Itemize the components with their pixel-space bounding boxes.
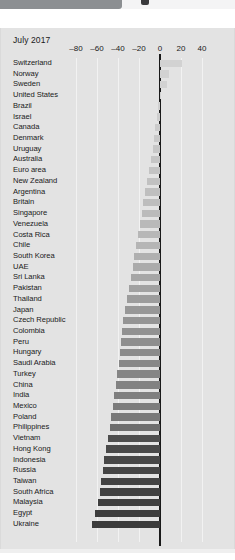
bar-chart-row: Switzerland — [1, 58, 235, 69]
bar-label: Indonesia — [13, 455, 45, 465]
bar-chart-row: India — [1, 390, 235, 401]
bar-chart-row: Denmark — [1, 133, 235, 144]
bar — [134, 253, 160, 260]
bar — [160, 70, 169, 77]
axis-tick-label: 40 — [198, 44, 207, 53]
bar-chart-row: Euro area — [1, 165, 235, 176]
axis-tick-label: –60 — [90, 44, 103, 53]
bar-chart-row: South Africa — [1, 487, 235, 498]
bar-chart-row: Malaysia — [1, 497, 235, 508]
bar — [143, 199, 160, 206]
bar-chart-row: Indonesia — [1, 455, 235, 466]
bar-chart-row: Japan — [1, 305, 235, 316]
bar-label: Poland — [13, 412, 36, 422]
bar — [119, 360, 160, 367]
bar-chart-row: Israel — [1, 112, 235, 123]
bar-label: Canada — [13, 122, 39, 132]
bar-label: South Korea — [13, 251, 55, 261]
bar-chart-row: Britain — [1, 197, 235, 208]
bar-label: Sweden — [13, 79, 40, 89]
bar-chart-row: Thailand — [1, 294, 235, 305]
bar-label: Venezuela — [13, 219, 48, 229]
bar-label: Saudi Arabia — [13, 358, 55, 368]
bar-label: Denmark — [13, 133, 43, 143]
bar-chart-row: Taiwan — [1, 476, 235, 487]
bar — [110, 424, 160, 431]
bar-chart-row: Poland — [1, 412, 235, 423]
bar-chart-row: Vietnam — [1, 433, 235, 444]
bar — [116, 381, 160, 388]
bar — [106, 445, 160, 452]
bar-label: Hungary — [13, 347, 41, 357]
axis-tick-label: –40 — [111, 44, 124, 53]
bar-label: Ukraine — [13, 519, 39, 529]
bar — [136, 242, 160, 249]
bar — [108, 435, 161, 442]
bar-label: Hong Kong — [13, 444, 51, 454]
bar — [138, 231, 160, 238]
bar — [155, 124, 160, 131]
bar-label: Uruguay — [13, 144, 41, 154]
bar-label: Costa Rica — [13, 230, 50, 240]
bar-label: Euro area — [13, 165, 46, 175]
bar — [151, 156, 160, 163]
bar — [133, 263, 160, 270]
bar — [153, 145, 160, 152]
bar-chart-row: Sweden — [1, 79, 235, 90]
bar-chart-row: Pakistan — [1, 283, 235, 294]
bar — [125, 306, 160, 313]
bar — [127, 295, 160, 302]
bar-chart-row: Philippines — [1, 422, 235, 433]
bar — [113, 403, 160, 410]
bar — [120, 349, 160, 356]
bar — [121, 338, 160, 345]
bar-chart-row: Chile — [1, 240, 235, 251]
bar-chart-rows: SwitzerlandNorwaySwedenUnited StatesBraz… — [1, 58, 235, 530]
bar-label: Britain — [13, 197, 34, 207]
bar — [160, 92, 161, 99]
bar-label: Taiwan — [13, 476, 36, 486]
bar-chart-row: Australia — [1, 154, 235, 165]
bar-label: Switzerland — [13, 58, 52, 68]
bar — [122, 328, 160, 335]
bar-chart-row: New Zealand — [1, 176, 235, 187]
bar-label: Argentina — [13, 187, 45, 197]
bar — [157, 113, 160, 120]
bar-chart-row: Uruguay — [1, 144, 235, 155]
bar-chart-row: Saudi Arabia — [1, 358, 235, 369]
chrome-gap — [0, 9, 235, 28]
bar-label: Vietnam — [13, 433, 40, 443]
bar-chart-row: Mexico — [1, 401, 235, 412]
axis-tick-label: –20 — [132, 44, 145, 53]
bar-chart-row: UAE — [1, 262, 235, 273]
bar-label: Chile — [13, 240, 30, 250]
bar — [103, 467, 160, 474]
bar-label: Colombia — [13, 326, 45, 336]
bar-label: New Zealand — [13, 176, 57, 186]
bar-label: Czech Republic — [13, 315, 65, 325]
bar-label: Australia — [13, 154, 42, 164]
bar — [147, 178, 160, 185]
bar-chart-row: South Korea — [1, 251, 235, 262]
bar-chart-row: Norway — [1, 69, 235, 80]
bar — [104, 456, 160, 463]
bar-label: Israel — [13, 112, 31, 122]
bar-label: Philippines — [13, 422, 49, 432]
bar — [100, 488, 160, 495]
bar-label: Japan — [13, 305, 33, 315]
bar-label: Mexico — [13, 401, 37, 411]
axis-tick-label: –80 — [69, 44, 82, 53]
bar — [131, 274, 160, 281]
bar-chart-row: Ukraine — [1, 519, 235, 530]
bar-label: South Africa — [13, 487, 53, 497]
bar-label: Pakistan — [13, 283, 42, 293]
bar-label: Malaysia — [13, 497, 43, 507]
bar-label: Thailand — [13, 294, 42, 304]
bar-label: Peru — [13, 337, 29, 347]
bar — [160, 60, 182, 67]
axis-tick-label: 0 — [158, 44, 162, 53]
axis-tick-label: 20 — [177, 44, 186, 53]
bar-chart-row: Hong Kong — [1, 444, 235, 455]
bar — [98, 499, 160, 506]
bar-chart-row: Canada — [1, 122, 235, 133]
